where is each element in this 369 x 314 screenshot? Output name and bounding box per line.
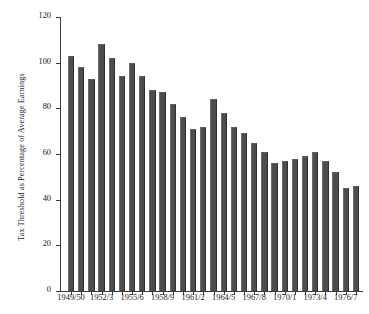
bar xyxy=(139,76,145,291)
y-axis-tick-label: 120 xyxy=(38,11,51,20)
bar-chart: Tax Threshold as Percentage of Average E… xyxy=(0,0,369,314)
x-axis-tick-label: 1970/1 xyxy=(273,293,296,302)
bar xyxy=(210,99,216,291)
bar xyxy=(200,127,206,291)
y-axis-tick-label: 0 xyxy=(47,285,51,294)
y-axis-tick: 0 xyxy=(56,291,61,292)
x-axis-line xyxy=(60,291,363,292)
bar xyxy=(159,92,165,291)
bar xyxy=(292,159,298,291)
bar xyxy=(109,58,115,291)
bar xyxy=(98,44,104,291)
bar xyxy=(88,79,94,291)
bar xyxy=(180,117,186,291)
bar xyxy=(149,90,155,291)
x-axis-tick-label: 1973/4 xyxy=(304,293,327,302)
y-axis-tick-label: 80 xyxy=(43,102,51,111)
x-axis-tick-label: 1949/50 xyxy=(57,293,84,302)
bars-layer xyxy=(60,17,363,291)
bar xyxy=(231,127,237,291)
bar xyxy=(119,76,125,291)
y-axis-title: Tax Threshold as Percentage of Average E… xyxy=(14,0,28,314)
bar xyxy=(251,143,257,291)
x-axis-labels: 1949/501952/31955/61958/91961/21964/5196… xyxy=(60,293,363,309)
bar xyxy=(221,113,227,291)
bar xyxy=(322,161,328,291)
y-axis-tick-label: 40 xyxy=(43,194,51,203)
x-axis-tick-label: 1955/6 xyxy=(120,293,143,302)
x-axis-tick-label: 1964/5 xyxy=(212,293,235,302)
bar xyxy=(312,152,318,291)
bar xyxy=(332,172,338,291)
bar xyxy=(170,104,176,291)
x-axis-tick-label: 1961/2 xyxy=(182,293,205,302)
bar xyxy=(353,186,359,291)
x-axis-tick-label: 1958/9 xyxy=(151,293,174,302)
bar xyxy=(302,156,308,291)
y-axis-tick-label: 60 xyxy=(43,148,51,157)
x-axis-tick-label: 1967/8 xyxy=(243,293,266,302)
bar xyxy=(190,129,196,291)
y-axis-tick-label: 100 xyxy=(38,57,51,66)
x-axis-tick-label: 1976/7 xyxy=(334,293,357,302)
bar xyxy=(261,152,267,291)
bar xyxy=(68,56,74,291)
bar xyxy=(78,67,84,291)
bar xyxy=(271,163,277,291)
x-axis-tick-label: 1952/3 xyxy=(90,293,113,302)
bar xyxy=(343,188,349,291)
plot-area: 020406080100120 xyxy=(60,17,363,291)
bar xyxy=(282,161,288,291)
bar xyxy=(241,133,247,291)
y-axis-tick-label: 20 xyxy=(43,239,51,248)
bar xyxy=(129,63,135,291)
